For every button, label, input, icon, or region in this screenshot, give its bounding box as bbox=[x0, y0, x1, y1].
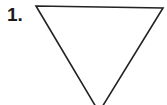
inverted-triangle-shape bbox=[36, 6, 163, 105]
figure-canvas: 1. bbox=[0, 0, 167, 105]
triangle-figure-svg bbox=[0, 0, 167, 105]
